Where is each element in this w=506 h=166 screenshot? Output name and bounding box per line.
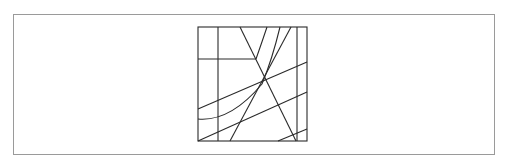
line-diagram [0, 0, 506, 166]
line-slope-1 [198, 62, 307, 109]
line-curve-b [198, 27, 280, 119]
line-curve-a [256, 27, 267, 59]
line-slope-3 [278, 129, 307, 141]
outer-square [198, 27, 307, 141]
line-diag-steep [230, 27, 291, 141]
line-diag-main [240, 27, 296, 141]
line-group [198, 27, 307, 141]
